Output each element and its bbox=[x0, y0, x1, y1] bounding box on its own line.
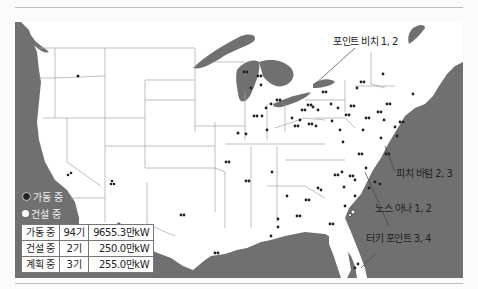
legend-operating: 가동 중 bbox=[22, 189, 63, 204]
legend-construction: 건설 중 bbox=[22, 206, 61, 221]
construction-dot-icon bbox=[22, 210, 29, 217]
bottom-divider bbox=[15, 283, 463, 284]
operating-dot-icon bbox=[22, 192, 31, 201]
callout-peach-bottom: 피치 바텀 2, 3 bbox=[396, 165, 452, 180]
table-row: 계획 중 3기 255.0만kW bbox=[22, 257, 154, 273]
top-divider bbox=[15, 7, 463, 8]
callout-north-anna: 노스 아나 1, 2 bbox=[375, 200, 431, 215]
table-row: 건설 중 2기 250.0만kW bbox=[22, 241, 154, 257]
plant-stats-table: 가동 중 94기 9655.3만kW 건설 중 2기 250.0만kW 계획 중… bbox=[21, 224, 154, 273]
callout-point-beach: 포인트 비치 1, 2 bbox=[333, 33, 398, 48]
callout-turkey-point: 터키 포인트 3, 4 bbox=[366, 230, 431, 245]
table-row: 가동 중 94기 9655.3만kW bbox=[22, 225, 154, 241]
